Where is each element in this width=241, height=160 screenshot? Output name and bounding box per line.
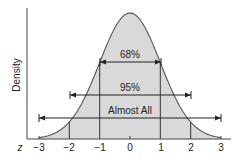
- label-95: 95%: [120, 82, 140, 93]
- tick-label-1: 1: [158, 142, 164, 153]
- tick-label-minus-3: −3: [33, 142, 45, 153]
- tick-label-minus-1: −1: [94, 142, 106, 153]
- tick-label-3: 3: [218, 142, 224, 153]
- x-axis-z-label: z: [17, 142, 23, 153]
- tick-label-0: 0: [127, 142, 133, 153]
- y-axis-label: Density: [11, 58, 22, 91]
- tick-label-minus-2: −2: [63, 142, 75, 153]
- label-almost-all: Almost All: [108, 105, 152, 116]
- density-area: [39, 13, 221, 139]
- tick-label-2: 2: [188, 142, 194, 153]
- label-68: 68%: [120, 49, 140, 60]
- normal-distribution-chart: 68% 95% Almost All Density z −3 −2 −1 0 …: [0, 0, 241, 160]
